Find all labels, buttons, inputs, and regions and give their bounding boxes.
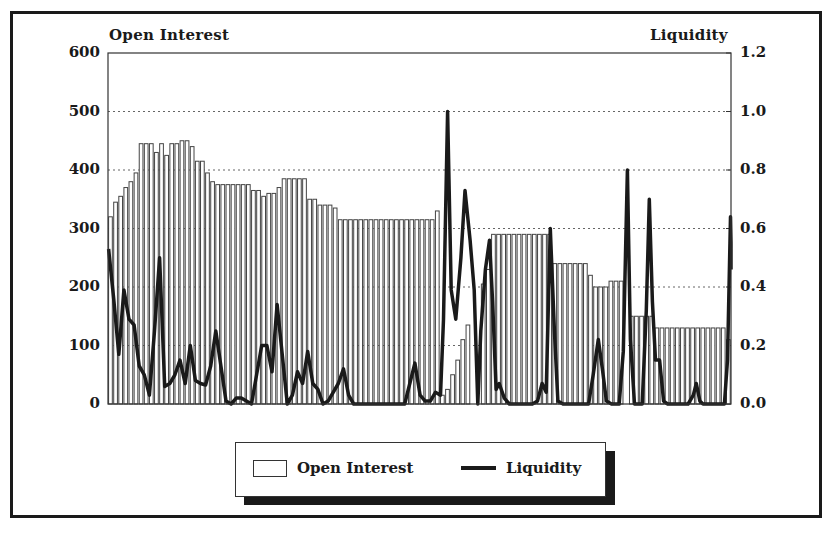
open-interest-bar — [711, 328, 715, 404]
open-interest-bar — [333, 208, 337, 404]
open-interest-bar — [466, 325, 470, 404]
open-interest-bar — [502, 234, 506, 404]
open-interest-bar — [430, 220, 434, 404]
open-interest-bar — [129, 182, 133, 404]
open-interest-bar — [670, 328, 674, 404]
open-interest-bar — [354, 220, 358, 404]
open-interest-bar — [405, 220, 409, 404]
open-interest-bar — [109, 217, 113, 404]
open-interest-bar — [446, 389, 450, 404]
open-interest-bar — [195, 161, 199, 404]
open-interest-bar — [517, 234, 521, 404]
open-interest-bar — [522, 234, 526, 404]
open-interest-bar — [563, 264, 567, 404]
open-interest-bar — [665, 328, 669, 404]
open-interest-bar — [686, 328, 690, 404]
open-interest-bar — [328, 205, 332, 404]
open-interest-bar — [287, 179, 291, 404]
legend-item-open-interest: Open Interest — [253, 459, 413, 477]
legend-item-liquidity: Liquidity — [461, 459, 581, 477]
open-interest-bar — [369, 220, 373, 404]
line-swatch-icon — [461, 466, 496, 470]
legend-label: Liquidity — [506, 459, 581, 477]
open-interest-bar — [246, 185, 250, 404]
open-interest-bar — [584, 264, 588, 404]
open-interest-bar — [578, 264, 582, 404]
open-interest-bar — [364, 220, 368, 404]
hollow-bar-swatch-icon — [253, 460, 287, 477]
open-interest-bar — [512, 234, 516, 404]
open-interest-bar — [395, 220, 399, 404]
open-interest-bar — [435, 211, 439, 404]
open-interest-bar — [231, 185, 235, 404]
open-interest-bar — [134, 173, 138, 404]
open-interest-bar — [323, 205, 327, 404]
open-interest-bar — [292, 179, 296, 404]
open-interest-bar — [451, 375, 455, 404]
open-interest-bar — [486, 269, 490, 404]
open-interest-bar — [716, 328, 720, 404]
open-interest-bar — [681, 328, 685, 404]
open-interest-bar — [389, 220, 393, 404]
open-interest-bar — [573, 264, 577, 404]
open-interest-bar — [568, 264, 572, 404]
open-interest-bar — [507, 234, 511, 404]
open-interest-bar — [236, 185, 240, 404]
open-interest-bar — [226, 185, 230, 404]
open-interest-bar — [675, 328, 679, 404]
open-interest-bar — [277, 188, 281, 404]
open-interest-bar — [527, 234, 531, 404]
open-interest-bar — [384, 220, 388, 404]
open-interest-bar — [609, 281, 613, 404]
open-interest-bar — [456, 360, 460, 404]
open-interest-bars — [109, 141, 731, 404]
open-interest-bar — [538, 234, 542, 404]
open-interest-bar — [211, 182, 215, 404]
open-interest-bar — [400, 220, 404, 404]
open-interest-bar — [614, 281, 618, 404]
open-interest-bar — [313, 199, 317, 404]
open-interest-bar — [216, 185, 220, 404]
open-interest-bar — [706, 328, 710, 404]
open-interest-bar — [374, 220, 378, 404]
open-interest-bar — [241, 185, 245, 404]
open-interest-bar — [701, 328, 705, 404]
open-interest-bar — [379, 220, 383, 404]
open-interest-bar — [201, 161, 205, 404]
open-interest-bar — [420, 220, 424, 404]
open-interest-bar — [318, 205, 322, 404]
open-interest-bar — [532, 234, 536, 404]
open-interest-bar — [425, 220, 429, 404]
open-interest-bar — [262, 196, 266, 404]
open-interest-bar — [267, 193, 271, 404]
open-interest-bar — [461, 340, 465, 404]
legend-label: Open Interest — [297, 459, 413, 477]
legend: Open Interest Liquidity — [235, 442, 606, 497]
open-interest-bar — [359, 220, 363, 404]
open-interest-bar — [349, 220, 353, 404]
open-interest-bar — [170, 144, 174, 404]
open-interest-bar — [252, 190, 256, 404]
open-interest-bar — [144, 144, 148, 404]
